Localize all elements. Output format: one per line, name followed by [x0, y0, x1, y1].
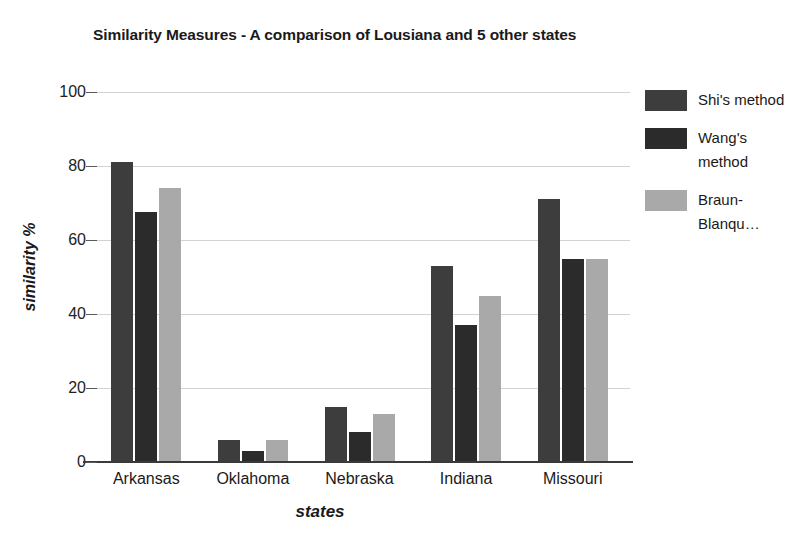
y-tick-mark-80: [86, 166, 97, 167]
bar-missouri-series-3: [586, 259, 608, 463]
legend-swatch-2: [645, 128, 687, 149]
bar-nebraska-series-3: [373, 414, 395, 462]
x-tick-label-nebraska: Nebraska: [300, 470, 420, 488]
chart-legend: Shi's methodWang's methodBraun-Blanqu…: [645, 88, 787, 250]
x-axis-title: states: [0, 502, 640, 522]
chart-title: Similarity Measures - A comparison of Lo…: [93, 22, 633, 47]
bar-nebraska-series-2: [349, 432, 371, 462]
y-tick-mark-20: [86, 388, 97, 389]
bar-group-nebraska: [325, 92, 395, 462]
x-tick-label-missouri: Missouri: [513, 470, 633, 488]
bar-indiana-series-1: [431, 266, 453, 462]
legend-label-2: Wang's method: [698, 126, 787, 174]
bar-arkansas-series-2: [135, 212, 157, 462]
bar-group-arkansas: [111, 92, 181, 462]
y-tick-label-40: 40: [46, 305, 86, 323]
bar-indiana-series-3: [479, 296, 501, 463]
legend-label-3: Braun-Blanqu…: [698, 188, 787, 236]
x-axis-line: [83, 461, 633, 463]
bar-chart: Similarity Measures - A comparison of Lo…: [0, 0, 787, 550]
x-tick-label-oklahoma: Oklahoma: [193, 470, 313, 488]
bar-oklahoma-series-1: [218, 440, 240, 462]
legend-swatch-3: [645, 190, 687, 211]
bar-missouri-series-2: [562, 259, 584, 463]
legend-label-1: Shi's method: [698, 88, 784, 112]
bar-missouri-series-1: [538, 199, 560, 462]
bar-group-oklahoma: [218, 92, 288, 462]
legend-item-1[interactable]: Shi's method: [645, 88, 787, 112]
bar-oklahoma-series-3: [266, 440, 288, 462]
legend-item-2[interactable]: Wang's method: [645, 126, 787, 174]
y-tick-label-0: 0: [46, 453, 86, 471]
y-tick-mark-0: [86, 462, 97, 463]
bar-nebraska-series-1: [325, 407, 347, 463]
y-tick-label-80: 80: [46, 157, 86, 175]
plot-area: [97, 92, 630, 462]
legend-item-3[interactable]: Braun-Blanqu…: [645, 188, 787, 236]
x-tick-label-arkansas: Arkansas: [86, 470, 206, 488]
bar-arkansas-series-3: [159, 188, 181, 462]
x-tick-label-indiana: Indiana: [406, 470, 526, 488]
y-tick-mark-40: [86, 314, 97, 315]
bar-arkansas-series-1: [111, 162, 133, 462]
y-axis-tick-labels: 020406080100: [34, 92, 86, 462]
bar-group-missouri: [538, 92, 608, 462]
y-tick-label-60: 60: [46, 231, 86, 249]
y-tick-label-100: 100: [46, 83, 86, 101]
y-tick-label-20: 20: [46, 379, 86, 397]
y-tick-mark-100: [86, 92, 97, 93]
bar-indiana-series-2: [455, 325, 477, 462]
bar-group-indiana: [431, 92, 501, 462]
legend-swatch-1: [645, 90, 687, 111]
y-tick-mark-60: [86, 240, 97, 241]
